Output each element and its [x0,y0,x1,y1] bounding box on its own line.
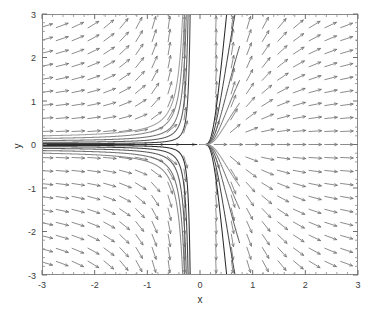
x-tick-label: -2 [91,280,99,290]
phase-portrait-plot: -3-2-10123-3-2-10123 x y [0,0,376,319]
trajectory-curves [42,0,240,298]
y-tick-label: -3 [28,271,36,281]
x-tick-label: 2 [303,280,308,290]
figure-canvas: -3-2-10123-3-2-10123 x y [0,0,376,319]
y-tick-label: -1 [28,184,36,194]
x-axis-label: x [198,294,203,305]
x-tick-label: 3 [355,280,360,290]
y-tick-label: -2 [28,227,36,237]
x-tick-label: -3 [38,280,46,290]
x-tick-label: 0 [197,280,202,290]
x-tick-label: -1 [143,280,151,290]
y-tick-label: 2 [31,53,36,63]
y-tick-label: 0 [31,140,36,150]
y-tick-label: 3 [31,10,36,20]
y-tick-label: 1 [31,97,36,107]
x-tick-label: 1 [250,280,255,290]
y-axis-label: y [12,144,23,149]
